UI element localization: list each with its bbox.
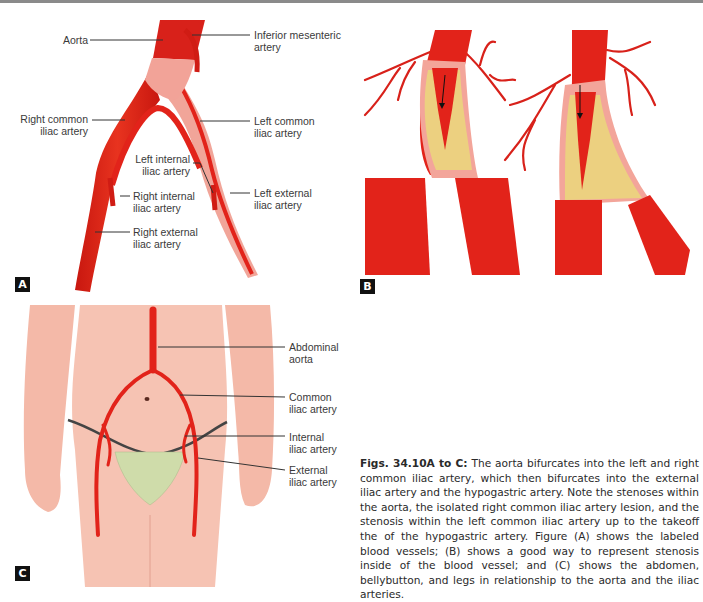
panel-a: Aorta Inferior mesenteric artery Right c… <box>0 0 360 295</box>
label-left-external-iliac-artery: Left external iliac artery <box>254 187 312 211</box>
caption-text: The aorta bifurcates into the left and r… <box>360 457 699 600</box>
label-right-internal-iliac-artery: Right internal iliac artery <box>133 190 195 214</box>
label-abdominal-aorta: Abdominal aorta <box>289 341 339 365</box>
label-common-iliac-artery: Common iliac artery <box>289 391 337 415</box>
panel-tag-c: C <box>15 566 30 581</box>
panel-tag-b: B <box>360 279 375 294</box>
label-right-external-iliac-artery: Right external iliac artery <box>133 226 198 250</box>
label-right-common-iliac-artery: Right common iliac artery <box>10 113 88 137</box>
label-external-iliac-artery: External iliac artery <box>289 464 337 488</box>
panel-b: B <box>360 0 703 300</box>
label-aorta: Aorta <box>52 34 88 46</box>
caption-title: Figs. 34.10A to C: <box>360 457 468 469</box>
label-left-common-iliac-artery: Left common iliac artery <box>254 115 315 139</box>
panel-tag-a: A <box>15 277 30 292</box>
figure-caption: Figs. 34.10A to C: The aorta bifurcates … <box>360 456 699 602</box>
label-inferior-mesenteric-artery: Inferior mesenteric artery <box>254 29 341 53</box>
label-left-internal-iliac-artery: Left internal iliac artery <box>122 153 190 177</box>
panel-c: Abdominal aorta Common iliac artery Inte… <box>0 300 360 587</box>
label-internal-iliac-artery: Internal iliac artery <box>289 431 337 455</box>
stenosis-illustration <box>360 0 703 300</box>
